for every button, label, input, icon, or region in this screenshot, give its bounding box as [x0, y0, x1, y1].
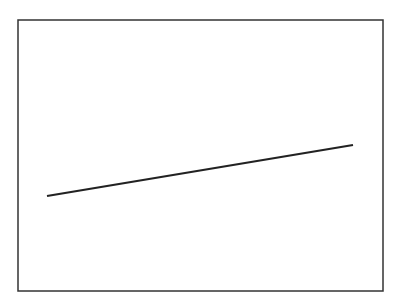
plot-frame: [18, 20, 383, 291]
line-chart: [0, 0, 403, 303]
data-line: [47, 145, 353, 196]
